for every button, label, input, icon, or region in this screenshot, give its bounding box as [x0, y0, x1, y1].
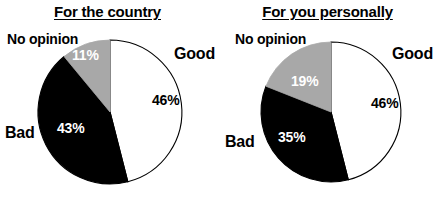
- slice-label-good-right: Good: [392, 45, 433, 63]
- slice-value-no-opinion-right: 19%: [291, 73, 318, 89]
- slice-value-good-left: 46%: [152, 92, 179, 108]
- chart-panel-for-the-country: For the country No opinion Good Bad 11% …: [0, 0, 215, 197]
- pie-chart-right: [216, 0, 431, 197]
- slice-label-good-left: Good: [174, 45, 215, 63]
- slice-value-bad-right: 35%: [278, 129, 305, 145]
- slice-label-no-opinion-right: No opinion: [235, 31, 306, 47]
- pie-chart-left: [0, 0, 215, 197]
- slice-value-bad-left: 43%: [57, 120, 84, 136]
- slice-value-no-opinion-left: 11%: [72, 47, 99, 63]
- slice-value-good-right: 46%: [371, 95, 398, 111]
- slice-label-bad-left: Bad: [5, 124, 35, 142]
- slice-label-bad-right: Bad: [225, 133, 255, 151]
- chart-panel-for-you-personally: For you personally No opinion Good Bad 1…: [216, 0, 431, 197]
- slice-label-no-opinion-left: No opinion: [7, 31, 78, 47]
